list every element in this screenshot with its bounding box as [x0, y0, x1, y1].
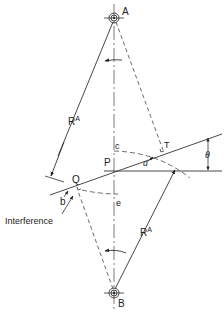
right-angle-q: [77, 187, 81, 190]
tangent-extension: [45, 176, 64, 182]
rotation-arrow-lower: [105, 250, 126, 253]
arrow-b: [64, 191, 68, 197]
label-a: A: [122, 6, 129, 17]
label-radius-lower: RA: [140, 226, 152, 238]
dimension-arrow-upper: [51, 142, 64, 176]
label-radius-upper: RA: [68, 115, 80, 127]
label-interference: Interference: [5, 216, 53, 226]
label-theta: θ: [205, 149, 210, 160]
label-b: B: [118, 298, 125, 309]
tangent-line: [50, 134, 222, 195]
label-p: P: [104, 157, 111, 168]
label-c: c: [115, 141, 120, 151]
radius-line-upper: [58, 22, 113, 156]
label-b-small: b: [60, 196, 66, 207]
label-q: Q: [72, 174, 80, 185]
arc-c-a: [114, 151, 190, 178]
label-e: e: [116, 198, 121, 208]
rotation-arrow-upper: [105, 60, 122, 61]
line-a-to-t: [116, 22, 163, 150]
label-t: T: [164, 140, 170, 150]
line-b-to-q: [78, 191, 113, 289]
label-a-small: a: [143, 157, 148, 168]
arc-q-e: [82, 190, 118, 194]
diagram-canvas: A B RA c T P a Q b e θ RA Interf: [0, 0, 224, 314]
